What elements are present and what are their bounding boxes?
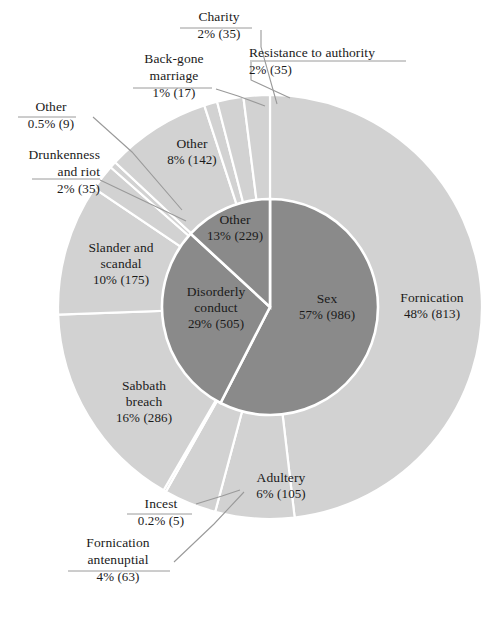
- label-fornication-antenuptial: Fornication antenuptial 4% (63): [62, 535, 174, 584]
- label-sabbath-breach-name-line2: breach: [98, 394, 190, 410]
- label-charity: Charity 2% (35): [176, 9, 262, 41]
- label-fornication-antenuptial-name-line1: Fornication: [62, 535, 174, 552]
- label-other-half-percent-value: 0.5% (9): [8, 116, 94, 131]
- label-adultery: Adultery 6% (105): [233, 470, 329, 501]
- label-drunkenness-and-riot: Drunkenness and riot 2% (35): [8, 147, 100, 196]
- label-sex-value: 57% (986): [287, 307, 367, 322]
- label-drunkenness-and-riot-name-line2: and riot: [8, 164, 100, 181]
- label-sabbath-breach: Sabbath breach 16% (286): [98, 378, 190, 425]
- label-sex-name: Sex: [287, 291, 367, 307]
- label-other-inner-ring-value: 13% (229): [196, 228, 274, 243]
- label-fornication-name: Fornication: [383, 290, 481, 306]
- label-slander-and-scandal: Slander and scandal 10% (175): [68, 240, 174, 287]
- label-adultery-value: 6% (105): [233, 486, 329, 501]
- label-adultery-name: Adultery: [233, 470, 329, 486]
- label-incest: Incest 0.2% (5): [124, 496, 198, 528]
- label-disorderly-conduct-name-line2: conduct: [166, 300, 266, 316]
- label-incest-value: 0.2% (5): [124, 513, 198, 528]
- label-resistance-to-authority: Resistance to authority 2% (35): [249, 45, 415, 77]
- label-other-inner-ring: Other 13% (229): [196, 212, 274, 243]
- label-back-gone-marriage-name-line1: Back-gone: [130, 51, 218, 68]
- label-other-inner-ring-name: Other: [196, 212, 274, 228]
- label-disorderly-conduct-name-line1: Disorderly: [166, 284, 266, 300]
- label-sabbath-breach-value: 16% (286): [98, 410, 190, 425]
- label-resistance-to-authority-value: 2% (35): [249, 62, 415, 77]
- label-fornication-value: 48% (813): [383, 306, 481, 321]
- label-slander-and-scandal-name-line1: Slander and: [68, 240, 174, 256]
- label-drunkenness-and-riot-name-line1: Drunkenness: [8, 147, 100, 164]
- pie-chart: Charity 2% (35) Back-gone marriage 1% (1…: [0, 0, 489, 626]
- label-resistance-to-authority-name: Resistance to authority: [249, 45, 415, 62]
- label-fornication: Fornication 48% (813): [383, 290, 481, 321]
- label-fornication-antenuptial-name-line2: antenuptial: [62, 552, 174, 569]
- label-back-gone-marriage: Back-gone marriage 1% (17): [130, 51, 218, 100]
- label-other-half-percent: Other 0.5% (9): [8, 99, 94, 131]
- label-disorderly-conduct: Disorderly conduct 29% (505): [166, 284, 266, 331]
- label-slander-and-scandal-value: 10% (175): [68, 272, 174, 287]
- label-incest-name: Incest: [124, 496, 198, 513]
- label-drunkenness-and-riot-value: 2% (35): [8, 181, 100, 196]
- label-back-gone-marriage-name-line2: marriage: [130, 68, 218, 85]
- label-other-half-percent-name: Other: [8, 99, 94, 116]
- label-slander-and-scandal-name-line2: scandal: [68, 256, 174, 272]
- label-other-outer-ring-value: 8% (142): [148, 152, 236, 167]
- label-sex: Sex 57% (986): [287, 291, 367, 322]
- label-disorderly-conduct-value: 29% (505): [166, 316, 266, 331]
- label-other-outer-ring: Other 8% (142): [148, 136, 236, 167]
- label-other-outer-ring-name: Other: [148, 136, 236, 152]
- label-back-gone-marriage-value: 1% (17): [130, 85, 218, 100]
- label-sabbath-breach-name-line1: Sabbath: [98, 378, 190, 394]
- label-fornication-antenuptial-value: 4% (63): [62, 569, 174, 584]
- label-charity-value: 2% (35): [176, 26, 262, 41]
- label-charity-name: Charity: [176, 9, 262, 26]
